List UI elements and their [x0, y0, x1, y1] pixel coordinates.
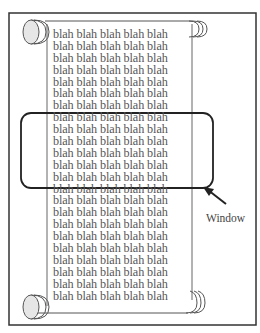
scroll-window-diagram: blah blah blah blah blahblah blah blah b…	[0, 0, 260, 333]
arrow-icon	[203, 187, 226, 204]
scroll-text-line: blah blah blah blah blah	[53, 291, 193, 303]
scroll-text-column: blah blah blah blah blahblah blah blah b…	[53, 29, 193, 302]
window-label: Window	[206, 212, 245, 224]
